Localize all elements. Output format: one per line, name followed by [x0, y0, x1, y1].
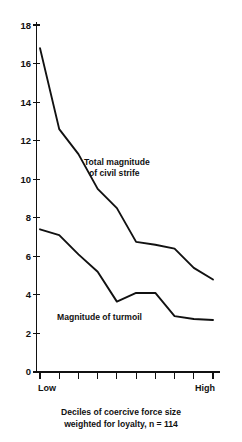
chart-figure: 18 16 14 12 10 8 6 4 2 0: [0, 0, 242, 442]
series-annotation-civil-strife-line1: Total magnitude: [84, 157, 150, 167]
y-tick-label-10: 10: [20, 174, 31, 185]
y-tick-label-0: 0: [26, 366, 31, 377]
line-chart-svg: 18 16 14 12 10 8 6 4 2 0: [0, 0, 242, 442]
y-tick-label-12: 12: [20, 135, 31, 146]
y-tick-label-6: 6: [26, 251, 31, 262]
series-annotation-turmoil: Magnitude of turmoil: [57, 312, 142, 322]
x-axis-label-low: Low: [38, 383, 57, 393]
y-tick-label-8: 8: [26, 212, 31, 223]
y-tick-label-14: 14: [20, 97, 31, 108]
y-tick-label-16: 16: [20, 58, 31, 69]
chart-caption-line1: Deciles of coercive force size: [61, 407, 181, 417]
y-tick-label-18: 18: [20, 20, 31, 31]
y-tick-label-2: 2: [26, 328, 31, 339]
series-annotation-civil-strife-line2: of civil strife: [89, 168, 140, 178]
series-line-magnitude-of-turmoil: [40, 229, 213, 320]
y-tick-label-4: 4: [26, 289, 32, 300]
chart-caption-line2: weighted for loyalty, n = 114: [63, 419, 178, 429]
x-axis-label-high: High: [195, 383, 215, 393]
x-axis-ticks: [40, 372, 213, 379]
